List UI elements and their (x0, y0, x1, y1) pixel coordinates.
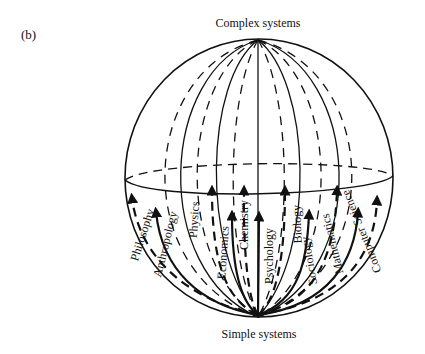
label-philosophy: Philosophy (127, 207, 157, 263)
sphere-diagram: Philosophy Anthropology Physics Economic… (0, 0, 425, 354)
label-psychology: Psychology (262, 228, 276, 284)
label-chemistry: Chemistry (237, 200, 251, 250)
label-sociology: Sociology (298, 236, 320, 286)
discipline-labels: Philosophy Anthropology Physics Economic… (127, 188, 384, 286)
label-physics: Physics (186, 201, 203, 239)
label-economics: Economics (214, 225, 232, 279)
diagram-canvas: (b) Complex systems Simple systems (0, 0, 425, 354)
